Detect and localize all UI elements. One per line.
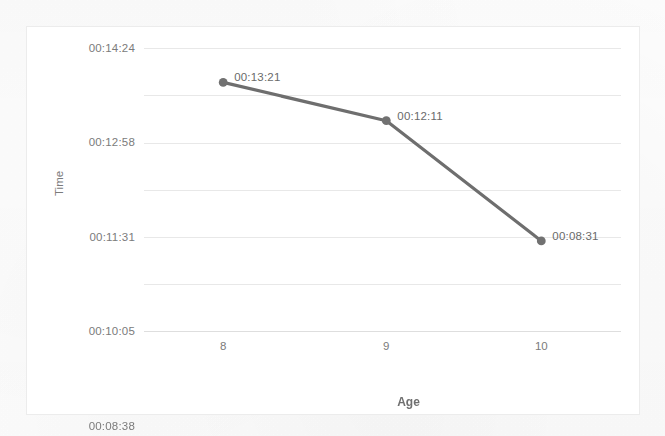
data-point-marker: [382, 116, 391, 125]
series-line: [223, 82, 541, 241]
plot-area: 00:14:2400:12:5800:11:3100:10:0500:08:38…: [144, 48, 621, 331]
y-tick-label: 00:12:58: [89, 136, 135, 148]
scanned-page: 00:14:2400:12:5800:11:3100:10:0500:08:38…: [0, 0, 665, 436]
y-tick-label: 00:10:05: [89, 325, 135, 337]
line-series: [144, 48, 621, 331]
chart-frame: 00:14:2400:12:5800:11:3100:10:0500:08:38…: [26, 26, 640, 415]
gridline: 00:05:46: [144, 331, 621, 332]
x-axis-title: Age: [170, 395, 647, 409]
series-markers: [219, 78, 546, 245]
y-axis-title: Time: [53, 171, 65, 196]
data-point-label: 00:08:31: [552, 230, 598, 242]
data-point-marker: [537, 237, 546, 246]
y-tick-label: 00:08:38: [89, 420, 135, 432]
y-tick-label: 00:14:24: [89, 42, 135, 54]
data-point-label: 00:13:21: [234, 71, 280, 83]
x-tick-label: 8: [220, 340, 226, 352]
data-point-marker: [219, 78, 228, 87]
y-tick-label: 00:11:31: [89, 231, 135, 243]
data-point-label: 00:12:11: [397, 110, 443, 122]
x-tick-label: 9: [383, 340, 389, 352]
x-tick-label: 10: [535, 340, 548, 352]
